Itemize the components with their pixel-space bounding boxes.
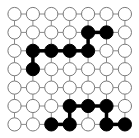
empty-cell[interactable] — [63, 63, 76, 76]
filled-cell[interactable] — [26, 63, 39, 76]
empty-cell[interactable] — [8, 118, 21, 131]
empty-cell[interactable] — [8, 81, 21, 94]
empty-cell[interactable] — [63, 81, 76, 94]
cells — [8, 7, 132, 131]
filled-cell[interactable] — [82, 26, 95, 39]
empty-cell[interactable] — [118, 44, 131, 57]
empty-cell[interactable] — [26, 99, 39, 112]
empty-cell[interactable] — [8, 99, 21, 112]
empty-cell[interactable] — [45, 81, 58, 94]
empty-cell[interactable] — [118, 63, 131, 76]
empty-cell[interactable] — [26, 7, 39, 20]
empty-cell[interactable] — [8, 63, 21, 76]
empty-cell[interactable] — [100, 44, 113, 57]
empty-cell[interactable] — [26, 81, 39, 94]
puzzle-board — [0, 0, 139, 138]
filled-cell[interactable] — [118, 118, 131, 131]
empty-cell[interactable] — [45, 7, 58, 20]
empty-cell[interactable] — [8, 44, 21, 57]
empty-cell[interactable] — [100, 81, 113, 94]
empty-cell[interactable] — [45, 26, 58, 39]
empty-cell[interactable] — [63, 7, 76, 20]
filled-cell[interactable] — [63, 99, 76, 112]
empty-cell[interactable] — [82, 63, 95, 76]
empty-cell[interactable] — [100, 7, 113, 20]
empty-cell[interactable] — [45, 99, 58, 112]
empty-cell[interactable] — [8, 26, 21, 39]
filled-cell[interactable] — [63, 44, 76, 57]
empty-cell[interactable] — [100, 63, 113, 76]
empty-cell[interactable] — [26, 26, 39, 39]
empty-cell[interactable] — [118, 81, 131, 94]
filled-cell[interactable] — [26, 44, 39, 57]
filled-cell[interactable] — [100, 118, 113, 131]
filled-cell[interactable] — [100, 26, 113, 39]
filled-cell[interactable] — [82, 99, 95, 112]
empty-cell[interactable] — [118, 7, 131, 20]
empty-cell[interactable] — [82, 118, 95, 131]
filled-cell[interactable] — [82, 44, 95, 57]
empty-cell[interactable] — [8, 7, 21, 20]
empty-cell[interactable] — [45, 63, 58, 76]
empty-cell[interactable] — [63, 26, 76, 39]
empty-cell[interactable] — [118, 26, 131, 39]
filled-cell[interactable] — [100, 99, 113, 112]
empty-cell[interactable] — [82, 81, 95, 94]
empty-cell[interactable] — [118, 99, 131, 112]
filled-cell[interactable] — [45, 44, 58, 57]
empty-cell[interactable] — [26, 118, 39, 131]
filled-cell[interactable] — [45, 118, 58, 131]
filled-cell[interactable] — [63, 118, 76, 131]
empty-cell[interactable] — [82, 7, 95, 20]
